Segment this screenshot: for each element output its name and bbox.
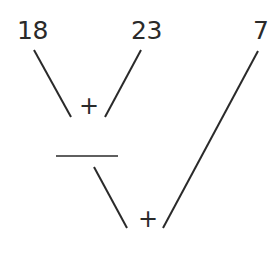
answer-blank[interactable] — [56, 136, 118, 156]
branch-7-line — [163, 51, 258, 228]
plus-operator-first: + — [79, 94, 99, 118]
branch-sum-line — [94, 167, 127, 228]
plus-operator-second: + — [138, 207, 158, 231]
branch-18-line — [34, 50, 71, 117]
branch-23-line — [105, 50, 141, 117]
